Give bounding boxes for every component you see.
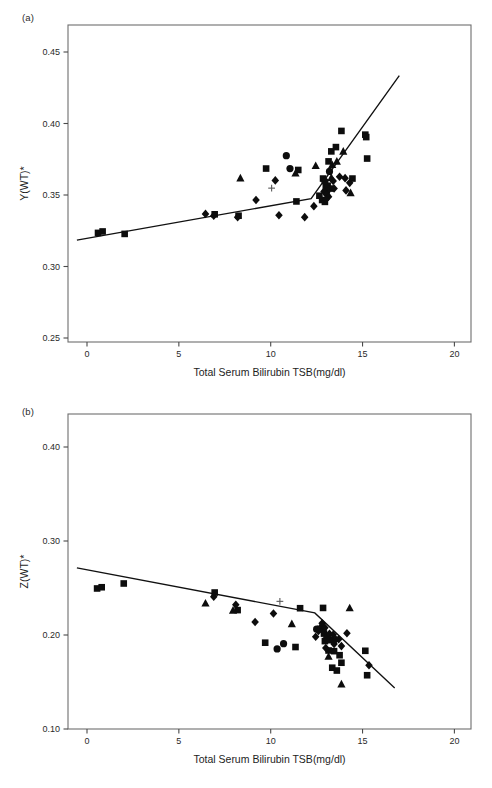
- x-axis-title: Total Serum Bilirubin TSB(mg/dl): [193, 753, 345, 765]
- y-tick-label: 0.10: [42, 724, 60, 734]
- y-tick-label: 0.40: [42, 442, 60, 452]
- y-tick-label: 0.25: [42, 333, 60, 343]
- x-tick-label: 10: [266, 349, 276, 359]
- y-tick-label: 0.30: [42, 262, 60, 272]
- figure-container: (a) 0.250.300.350.400.4505101520Total Se…: [0, 0, 492, 788]
- y-axis-title: Y(WT)*: [18, 166, 30, 200]
- x-axis-title: Total Serum Bilirubin TSB(mg/dl): [193, 366, 345, 378]
- series-diamond: [210, 592, 373, 669]
- y-tick-label: 0.30: [42, 536, 60, 546]
- x-tick-label: 5: [176, 736, 181, 746]
- x-tick-label: 15: [358, 349, 368, 359]
- x-tick-label: 15: [358, 736, 368, 746]
- x-tick-label: 10: [266, 736, 276, 746]
- series-plus: [276, 598, 283, 605]
- y-axis-title: Z(WT)*: [18, 555, 30, 589]
- y-tick-label: 0.40: [42, 119, 60, 129]
- data-layer: [77, 76, 399, 240]
- panel-a: (a) 0.250.300.350.400.4505101520Total Se…: [0, 0, 492, 394]
- x-tick-label: 0: [84, 736, 89, 746]
- data-layer: [77, 568, 395, 688]
- x-tick-label: 0: [84, 349, 89, 359]
- panel-a-plot: 0.250.300.350.400.4505101520Total Serum …: [0, 0, 492, 394]
- series-square: [95, 128, 371, 238]
- x-tick-label: 5: [176, 349, 181, 359]
- y-tick-label: 0.20: [42, 630, 60, 640]
- x-tick-label: 20: [449, 349, 459, 359]
- series-square: [94, 580, 371, 678]
- series-plus: [268, 185, 275, 192]
- y-tick-label: 0.45: [42, 47, 60, 57]
- panel-b-plot: 0.100.200.300.4005101520Total Serum Bili…: [0, 394, 492, 788]
- y-tick-label: 0.35: [42, 190, 60, 200]
- x-tick-label: 20: [449, 736, 459, 746]
- panel-b: (b) 0.100.200.300.4005101520Total Serum …: [0, 394, 492, 788]
